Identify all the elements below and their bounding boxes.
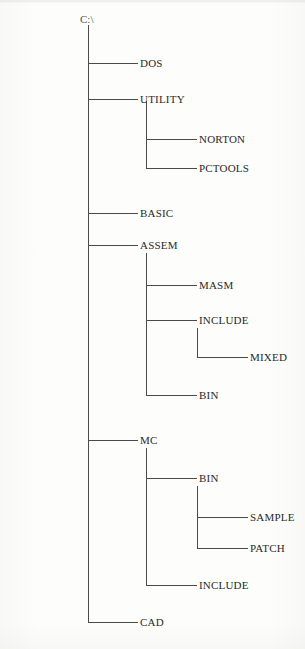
branch-dos [88, 63, 138, 64]
branch-basic [88, 213, 138, 214]
node-norton: NORTON [199, 134, 245, 145]
node-include: INCLUDE [199, 315, 249, 326]
branch-mixed [197, 357, 248, 358]
branch-include [146, 320, 197, 321]
node-basic: BASIC [140, 208, 173, 219]
node-utility: UTILITY [140, 94, 185, 105]
branch-sample [197, 517, 248, 518]
branch-mc [88, 440, 138, 441]
node-pctools: PCTOOLS [199, 163, 249, 174]
branch-mc-bin [146, 478, 197, 479]
trunk-utility [146, 101, 147, 169]
node-bin: BIN [199, 390, 219, 401]
node-sample: SAMPLE [250, 512, 295, 523]
trunk-root [88, 25, 89, 623]
branch-utility [88, 99, 138, 100]
branch-patch [197, 548, 248, 549]
branch-assem [88, 245, 138, 246]
node-masm: MASM [199, 280, 233, 291]
node-mc-bin: BIN [199, 473, 219, 484]
branch-masm [146, 285, 197, 286]
node-dos: DOS [140, 58, 163, 69]
node-cad: CAD [140, 617, 164, 628]
branch-norton [146, 139, 197, 140]
trunk-assem [146, 253, 147, 396]
node-mc: MC [140, 435, 158, 446]
trunk-assem-include [197, 328, 198, 358]
branch-cad [88, 622, 138, 623]
node-patch: PATCH [250, 543, 285, 554]
branch-mc-include [146, 585, 197, 586]
branch-pctools [146, 168, 197, 169]
directory-tree-diagram: C:\ DOSUTILITYNORTONPCTOOLSBASICASSEMMAS… [0, 0, 305, 649]
node-mixed: MIXED [250, 352, 287, 363]
node-assem: ASSEM [140, 240, 178, 251]
node-mc-include: INCLUDE [199, 580, 249, 591]
root-node-label: C:\ [80, 14, 93, 25]
branch-bin [146, 395, 197, 396]
trunk-mc [146, 448, 147, 586]
